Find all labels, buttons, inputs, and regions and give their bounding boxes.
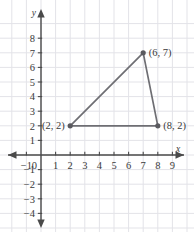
point-coordinate-label: (8, 2): [163, 120, 186, 132]
y-axis-tick-label: −3: [24, 194, 35, 205]
x-axis-tick-label: 5: [111, 160, 116, 171]
y-axis-tick-label: −4: [24, 208, 36, 219]
x-axis-name-label: x: [175, 144, 181, 154]
y-axis-tick-label: −2: [24, 179, 35, 190]
plotted-point: [68, 123, 73, 128]
y-axis-tick-label: 1: [30, 135, 35, 146]
y-axis-arrow-down: [37, 220, 44, 229]
y-axis-tick-label: 2: [30, 121, 35, 132]
graph-canvas: −112345678987654321−1−2−3−40 xy (2, 2)(6…: [0, 0, 194, 232]
coordinate-plane-figure: −112345678987654321−1−2−3−40 xy (2, 2)(6…: [0, 0, 194, 232]
plotted-point: [141, 50, 146, 55]
y-axis-name-label: y: [31, 8, 37, 18]
point-coordinate-label: (6, 7): [149, 47, 172, 59]
x-axis-tick-label: 3: [82, 160, 87, 171]
y-axis-tick-label: 3: [30, 106, 35, 117]
point-coordinate-label: (2, 2): [42, 120, 65, 132]
y-axis-arrow-up: [37, 9, 44, 18]
x-axis-tick-label: 8: [155, 160, 160, 171]
axis-names: xy: [31, 8, 181, 154]
y-axis-tick-label: 6: [30, 62, 35, 73]
x-axis-tick-label: 1: [53, 160, 58, 171]
y-axis-tick-label: 5: [30, 77, 35, 88]
x-axis-tick-label: 2: [68, 160, 73, 171]
triangle-edge: [143, 53, 158, 126]
triangle-edge: [70, 53, 143, 126]
x-axis-tick-label: 6: [126, 160, 131, 171]
plotted-point: [155, 123, 160, 128]
y-axis-tick-label: 7: [30, 48, 35, 59]
x-axis-tick-label: 7: [141, 160, 146, 171]
y-axis-tick-label: 8: [30, 33, 35, 44]
y-axis-tick-label: 4: [30, 91, 36, 102]
origin-label: 0: [32, 160, 37, 171]
x-axis-tick-label: 4: [97, 160, 103, 171]
x-axis-tick-label: 9: [170, 160, 175, 171]
